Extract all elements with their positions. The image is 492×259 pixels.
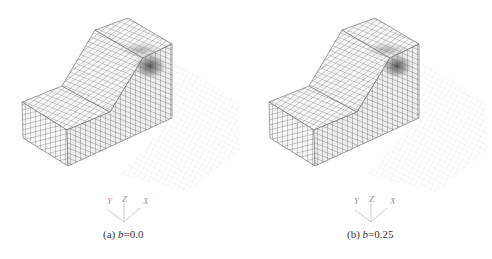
axis-z-label: Z <box>122 194 127 204</box>
axis-x-label: X <box>390 196 396 206</box>
axis-triad <box>355 203 387 222</box>
axis-y-label: Y <box>354 196 359 206</box>
mesh-model-b <box>247 0 492 259</box>
caption-a: (a) b=0.0 <box>103 228 143 240</box>
mesh-model-a <box>0 0 246 259</box>
panel-b: Y Z X (b) b=0.25 <box>247 0 492 259</box>
caption-b: (b) b=0.25 <box>347 228 394 240</box>
axis-triad <box>108 203 140 222</box>
axis-z-label: Z <box>369 194 374 204</box>
axis-x-label: X <box>143 196 149 206</box>
panel-a: Y Z X (a) b=0.0 <box>0 0 246 259</box>
axis-y-label: Y <box>107 196 112 206</box>
